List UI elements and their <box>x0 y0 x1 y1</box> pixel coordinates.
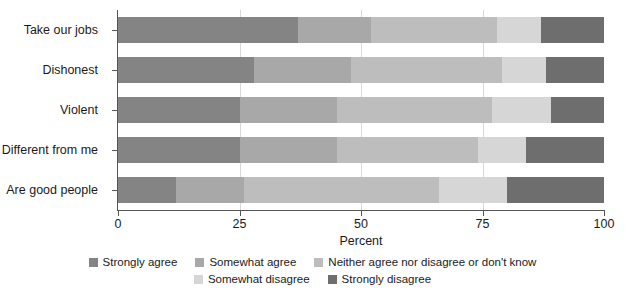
y-axis-label: Different from me <box>2 143 98 157</box>
bar-segment <box>439 177 507 203</box>
bar-segment <box>240 137 337 163</box>
legend-label: Somewhat disagree <box>208 271 310 288</box>
y-tick <box>112 110 117 111</box>
bar-stack <box>118 97 604 123</box>
x-axis-title: Percent <box>117 234 605 248</box>
y-axis-label: Violent <box>60 103 98 117</box>
bar-segment <box>546 57 604 83</box>
bar-segment <box>337 137 478 163</box>
bar-segment <box>337 97 493 123</box>
legend-swatch-icon <box>89 258 98 267</box>
bar-segment <box>118 97 240 123</box>
x-tick <box>240 211 241 216</box>
bar-segment <box>240 97 337 123</box>
bar-segment <box>526 137 604 163</box>
y-axis-label: Dishonest <box>42 63 98 77</box>
legend-item[interactable]: Strongly agree <box>89 254 178 271</box>
x-tick-label: 75 <box>476 217 490 231</box>
x-tick-label: 25 <box>233 217 247 231</box>
legend-label: Neither agree nor disagree or don't know <box>328 254 536 271</box>
bar-segment <box>551 97 604 123</box>
legend-row: Strongly agreeSomewhat agreeNeither agre… <box>0 254 625 271</box>
y-tick <box>112 190 117 191</box>
legend-swatch-icon <box>328 275 337 284</box>
legend-item[interactable]: Somewhat agree <box>195 254 296 271</box>
bar-segment <box>176 177 244 203</box>
bar-segment <box>492 97 550 123</box>
legend-swatch-icon <box>314 258 323 267</box>
bar-segment <box>502 57 546 83</box>
bar-stack <box>118 17 604 43</box>
bar-segment <box>118 57 254 83</box>
bar-segment <box>298 17 371 43</box>
bar-segment <box>507 177 604 203</box>
bar-row <box>118 137 604 163</box>
y-tick <box>112 150 117 151</box>
bar-segment <box>351 57 502 83</box>
y-tick <box>112 70 117 71</box>
legend-swatch-icon <box>195 258 204 267</box>
legend-label: Strongly disagree <box>342 271 432 288</box>
bar-segment <box>244 177 438 203</box>
bar-row <box>118 97 604 123</box>
x-tick-label: 50 <box>354 217 368 231</box>
stacked-bar-chart: Take our jobsDishonestViolentDifferent f… <box>0 0 625 300</box>
legend-row: Somewhat disagreeStrongly disagree <box>0 271 625 288</box>
bar-segment <box>478 137 527 163</box>
legend-label: Strongly agree <box>103 254 178 271</box>
legend-swatch-icon <box>194 275 203 284</box>
bar-segment <box>371 17 497 43</box>
bar-row <box>118 57 604 83</box>
x-tick <box>604 211 605 216</box>
plot-area <box>118 10 604 210</box>
x-tick <box>361 211 362 216</box>
legend-label: Somewhat agree <box>209 254 296 271</box>
chart-legend: Strongly agreeSomewhat agreeNeither agre… <box>0 254 625 288</box>
x-tick-label: 100 <box>594 217 615 231</box>
bar-segment <box>118 177 176 203</box>
y-tick <box>112 30 117 31</box>
legend-item[interactable]: Strongly disagree <box>328 271 432 288</box>
bar-segment <box>118 17 298 43</box>
bar-segment <box>541 17 604 43</box>
x-tick <box>483 211 484 216</box>
y-axis-label: Take our jobs <box>24 23 98 37</box>
legend-item[interactable]: Somewhat disagree <box>194 271 310 288</box>
bar-segment <box>254 57 351 83</box>
bar-stack <box>118 57 604 83</box>
bar-row <box>118 177 604 203</box>
y-axis-labels: Take our jobsDishonestViolentDifferent f… <box>0 0 110 200</box>
bar-segment <box>118 137 240 163</box>
legend-item[interactable]: Neither agree nor disagree or don't know <box>314 254 536 271</box>
bar-stack <box>118 137 604 163</box>
x-tick-label: 0 <box>115 217 122 231</box>
y-axis-label: Are good people <box>6 183 98 197</box>
bar-stack <box>118 177 604 203</box>
x-tick <box>118 211 119 216</box>
bar-segment <box>497 17 541 43</box>
bar-row <box>118 17 604 43</box>
